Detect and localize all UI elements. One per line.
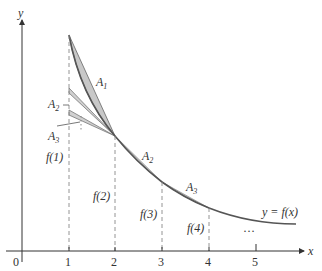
origin-label: 0 (13, 255, 19, 269)
tick-label-5: 5 (252, 255, 258, 269)
x-axis-label: x (307, 244, 314, 258)
horizontal-ellipsis: … (243, 221, 255, 235)
y-axis-label: y (17, 6, 24, 20)
label-f3: f(3) (140, 207, 157, 221)
tick-label-2: 2 (111, 255, 117, 269)
curve-label: y = f(x) (261, 205, 298, 219)
label-a2-right: A2 (141, 149, 153, 165)
dashed-verticals (69, 35, 209, 251)
label-f4: f(4) (187, 221, 204, 235)
convex-function-area-diagram: y x 0 1 2 3 4 5 A1 A2 A3 A2 A3 f(1) f(2)… (0, 0, 322, 271)
label-a1: A1 (95, 75, 107, 91)
area-a2-right-shade (115, 136, 162, 182)
diagram-canvas: y x 0 1 2 3 4 5 A1 A2 A3 A2 A3 f(1) f(2)… (0, 0, 322, 271)
label-f2: f(2) (93, 189, 110, 203)
tick-label-3: 3 (158, 255, 164, 269)
label-a2-left: A2 (47, 97, 59, 113)
x-ticks (69, 244, 256, 251)
tick-label-1: 1 (65, 255, 71, 269)
label-f1: f(1) (46, 150, 63, 164)
tick-label-4: 4 (205, 255, 211, 269)
label-a3-right: A3 (185, 180, 197, 196)
area-a1-shade (69, 35, 115, 136)
label-a3-left: A3 (47, 129, 59, 145)
